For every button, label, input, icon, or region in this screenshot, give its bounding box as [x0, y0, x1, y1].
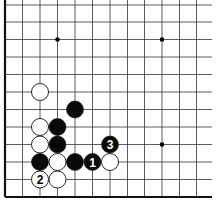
- star-point-icon: [160, 37, 165, 42]
- black-stone: [49, 119, 66, 136]
- move-number-label: 1: [89, 156, 96, 170]
- white-stone: [102, 154, 119, 171]
- white-stone: [49, 171, 66, 188]
- black-stone-1: 1: [84, 154, 101, 171]
- white-stone: [32, 136, 49, 153]
- white-stone-2: 2: [32, 171, 49, 188]
- move-number-label: 2: [37, 173, 44, 187]
- black-stone: [67, 101, 84, 118]
- white-stone: [32, 119, 49, 136]
- go-board[interactable]: 312: [0, 0, 219, 205]
- star-point-icon: [160, 142, 165, 147]
- white-stone: [49, 154, 66, 171]
- black-stone: [49, 136, 66, 153]
- white-stone: [32, 84, 49, 101]
- star-point-icon: [55, 37, 60, 42]
- black-stone: [32, 154, 49, 171]
- black-stone: [67, 154, 84, 171]
- black-stone-3: 3: [102, 136, 119, 153]
- move-number-label: 3: [107, 138, 114, 152]
